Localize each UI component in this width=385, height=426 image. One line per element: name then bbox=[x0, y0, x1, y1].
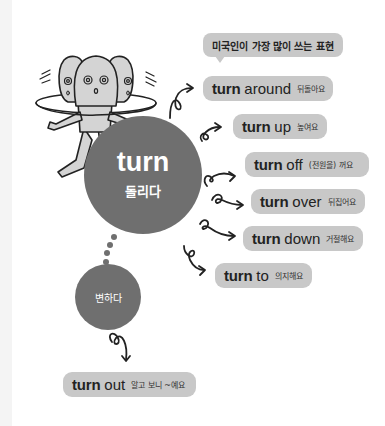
secondary-meaning: 변하다 bbox=[95, 290, 122, 305]
header-speech-bubble: 미국인이 가장 많이 쓰는 표현 bbox=[203, 33, 343, 57]
header-title: 미국인이 가장 많이 쓰는 표현 bbox=[212, 38, 334, 53]
phrase-meaning: (전원을) 꺼요 bbox=[309, 159, 353, 170]
phrase-meaning: 거절해요 bbox=[326, 233, 354, 244]
connector-dots bbox=[103, 234, 117, 265]
phrase-particle: over bbox=[292, 193, 321, 210]
main-word-circle: turn 돌리다 bbox=[84, 116, 202, 234]
phrase-bubble-turn-over: turn over 뒤집어요 bbox=[251, 189, 365, 214]
phrase-particle: down bbox=[284, 230, 320, 247]
phrase-particle: out bbox=[104, 376, 125, 393]
main-word-meaning: 돌리다 bbox=[125, 181, 161, 200]
phrase-particle: off bbox=[286, 156, 302, 173]
phrase-particle: to bbox=[256, 267, 269, 284]
phrase-meaning: 높여요 bbox=[297, 121, 318, 132]
phrase-meaning: 의지해요 bbox=[275, 270, 303, 281]
phrase-meaning: 뒤집어요 bbox=[328, 196, 356, 207]
phrase-bubble-turn-around: turn around 뒤돌아요 bbox=[203, 76, 333, 101]
phrase-verb: turn bbox=[212, 80, 240, 97]
phrase-verb: turn bbox=[242, 118, 270, 135]
main-word: turn bbox=[117, 147, 169, 177]
phrase-meaning: 뒤돌아요 bbox=[297, 83, 325, 94]
phrase-verb: turn bbox=[260, 193, 288, 210]
phrase-verb: turn bbox=[252, 230, 280, 247]
phrase-bubble-turn-out: turn out 알고 보니 ~예요 bbox=[63, 372, 196, 397]
phrase-particle: around bbox=[244, 80, 291, 97]
phrase-bubble-turn-to: turn to 의지해요 bbox=[215, 263, 312, 288]
phrase-meaning: 알고 보니 ~예요 bbox=[131, 379, 185, 390]
phrase-bubble-turn-down: turn down 거절해요 bbox=[243, 226, 363, 251]
phrase-verb: turn bbox=[72, 376, 100, 393]
phrase-particle: up bbox=[274, 118, 291, 135]
secondary-meaning-circle: 변하다 bbox=[75, 264, 141, 330]
phrase-verb: turn bbox=[224, 267, 252, 284]
phrase-bubble-turn-up: turn up 높여요 bbox=[233, 114, 327, 139]
phrase-verb: turn bbox=[254, 156, 282, 173]
phrase-bubble-turn-off: turn off (전원을) 꺼요 bbox=[245, 152, 369, 177]
